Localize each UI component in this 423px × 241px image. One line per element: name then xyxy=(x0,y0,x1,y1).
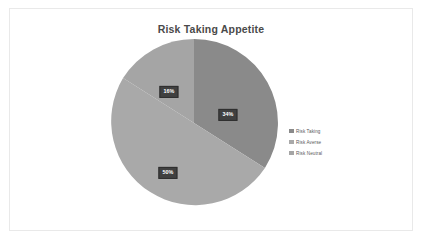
legend-label: Risk Neutral xyxy=(296,151,322,156)
legend-item-risk-taking[interactable]: Risk Taking xyxy=(289,126,359,136)
legend-item-risk-neutral[interactable]: Risk Neutral xyxy=(289,148,359,158)
legend-item-risk-averse[interactable]: Risk Averse xyxy=(289,137,359,147)
chart-legend: Risk Taking Risk Averse Risk Neutral xyxy=(289,126,359,159)
pie-label-risk-taking: 34% xyxy=(218,109,237,121)
legend-swatch-icon xyxy=(289,151,294,156)
plot-area: 34% 50% 16% Risk Taking Risk Averse Risk… xyxy=(10,9,414,232)
legend-swatch-icon xyxy=(289,129,294,134)
legend-label: Risk Averse xyxy=(296,140,321,145)
pie-label-risk-averse: 50% xyxy=(158,167,177,179)
legend-swatch-icon xyxy=(289,140,294,145)
pie-svg xyxy=(108,37,280,209)
pie-label-risk-neutral: 16% xyxy=(159,86,178,98)
pie-chart: 34% 50% 16% xyxy=(108,37,280,209)
chart-frame: Risk Taking Appetite 34% 50% 16% Risk Ta… xyxy=(9,8,413,231)
legend-label: Risk Taking xyxy=(296,129,321,134)
